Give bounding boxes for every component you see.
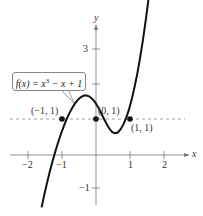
- x-axis-label: x: [192, 149, 196, 159]
- x-axis-arrow-icon: [184, 153, 190, 157]
- point-0-1: [93, 116, 99, 122]
- y-axis-label: y: [94, 13, 98, 23]
- tick-label-x-1: 1: [128, 160, 133, 170]
- tick-label-y-3: 3: [83, 44, 88, 54]
- function-label-suffix: − x + 1: [49, 78, 82, 89]
- tick-label-x-2: 2: [162, 160, 167, 170]
- function-curve: [42, 0, 149, 207]
- tick-label-y-neg1: −1: [79, 183, 90, 193]
- point-label-1-1: (1, 1): [131, 123, 153, 133]
- tick-label-x-neg2: −2: [22, 160, 33, 170]
- point-1-1: [127, 116, 133, 122]
- function-label-prefix: f(x) = x: [16, 78, 46, 89]
- point-label-0-1: (0, 1): [98, 106, 120, 116]
- tick-label-x-neg1: −1: [56, 160, 67, 170]
- point-neg1-1: [59, 116, 65, 122]
- function-label-callout: f(x) = x3 − x + 1: [12, 72, 86, 91]
- y-axis-arrow-icon: [94, 24, 98, 30]
- point-label-neg1-1: (−1, 1): [31, 106, 58, 116]
